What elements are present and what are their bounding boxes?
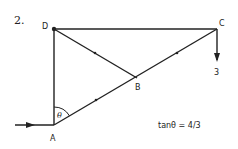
- node-label-c: C: [219, 19, 225, 28]
- node-label-a: A: [50, 134, 56, 143]
- theta-symbol: θ: [57, 111, 62, 120]
- input-arrow-head: [26, 122, 35, 128]
- joint-d: [52, 27, 56, 31]
- tick-bc: [176, 52, 179, 55]
- tick-db: [94, 52, 97, 55]
- problem-number: 2.: [14, 14, 25, 27]
- tick-ab: [95, 99, 98, 102]
- truss-diagram: 2. D C A B θ 3 tanθ = 4/3: [0, 0, 238, 149]
- load-label: 3: [214, 68, 219, 77]
- load-arrow-head: [214, 53, 220, 62]
- node-label-d: D: [42, 22, 48, 31]
- node-label-b: B: [135, 83, 141, 92]
- tan-equation: tanθ = 4/3: [158, 121, 201, 130]
